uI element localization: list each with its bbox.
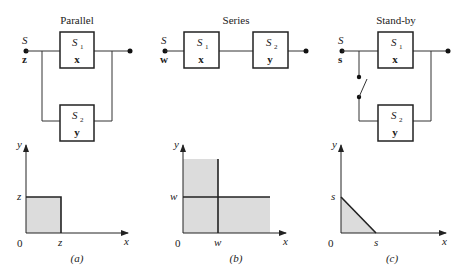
switch-contact-top [357, 75, 361, 79]
block-s1-name: S [391, 36, 397, 48]
block-s2-name: S [266, 36, 272, 48]
y-tick-label: w [170, 190, 178, 202]
x-tick-label: z [57, 236, 63, 248]
caption: (a) [71, 252, 84, 265]
input-label: S [22, 34, 28, 46]
panel-title: Parallel [60, 14, 94, 26]
block-s1-name: S [197, 36, 203, 48]
block-s1-name: S [72, 36, 78, 48]
panel-standby: Stand-by S s S 1 x S 2 y y x 0 s s (c) [328, 14, 451, 265]
block-s2-sub: 2 [399, 116, 403, 124]
input-label: S [338, 34, 344, 46]
block-s2-sub: 2 [80, 116, 84, 124]
output-node [304, 49, 309, 54]
feasible-region-vertical [183, 159, 218, 233]
x-tick-label: w [214, 236, 222, 248]
x-tick-label: s [374, 236, 378, 248]
panel-series: Series S w S 1 x S 2 y y x 0 w w (b) [160, 14, 309, 265]
reliability-diagrams: Parallel S z S 1 x S 2 y y x 0 z z (a) S… [0, 0, 468, 276]
block-s2-sub: 2 [274, 43, 278, 51]
panel-title: Series [223, 14, 250, 26]
x-axis-label: x [441, 235, 447, 247]
block-s2-var: y [267, 53, 273, 65]
y-axis-label: y [173, 138, 179, 150]
input-label: S [161, 34, 167, 46]
block-s2-var: y [74, 126, 80, 138]
switch-icon [359, 79, 367, 97]
block-s1-var: x [392, 53, 398, 65]
block-s1-var: x [198, 53, 204, 65]
block-s1-sub: 1 [80, 43, 84, 51]
origin-label: 0 [175, 237, 181, 249]
input-variable: z [22, 53, 27, 65]
feasible-region-horizontal [218, 197, 270, 233]
panel-parallel: Parallel S z S 1 x S 2 y y x 0 z z (a) [16, 14, 133, 265]
output-node [446, 49, 451, 54]
block-s2-name: S [391, 109, 397, 121]
output-node [128, 49, 133, 54]
y-axis-label: y [16, 138, 22, 150]
y-tick-label: s [331, 190, 335, 202]
caption: (c) [386, 252, 399, 265]
caption: (b) [230, 252, 243, 265]
block-s1-sub: 1 [399, 43, 403, 51]
x-axis-label: x [282, 235, 288, 247]
panel-title: Stand-by [376, 14, 416, 26]
y-tick-label: z [16, 190, 22, 202]
y-axis-label: y [331, 138, 337, 150]
block-s1-var: x [74, 53, 80, 65]
origin-label: 0 [328, 237, 334, 249]
input-variable: s [338, 53, 343, 65]
x-axis-label: x [123, 235, 129, 247]
feasible-region [26, 197, 61, 233]
origin-label: 0 [17, 237, 23, 249]
block-s1-sub: 1 [205, 43, 209, 51]
block-s2-var: y [392, 126, 398, 138]
input-variable: w [160, 53, 168, 65]
block-s2-name: S [72, 109, 78, 121]
